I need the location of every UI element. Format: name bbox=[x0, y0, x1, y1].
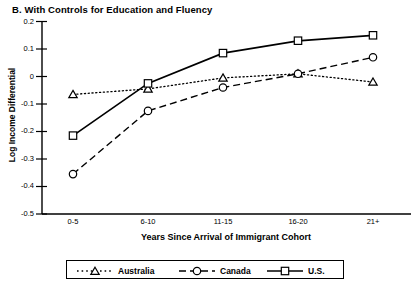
legend-item-canada: Canada bbox=[177, 261, 251, 280]
legend-symbol-canada-icon bbox=[177, 264, 217, 278]
chart-container: B. With Controls for Education and Fluen… bbox=[0, 0, 413, 288]
chart-legend: Australia Canada U.S. bbox=[66, 260, 344, 279]
legend-symbol-us-icon bbox=[265, 264, 305, 278]
legend-item-australia: Australia bbox=[75, 261, 154, 280]
plot-area bbox=[0, 0, 413, 288]
legend-symbol-australia-icon bbox=[75, 264, 115, 278]
legend-label-us: U.S. bbox=[308, 266, 325, 276]
legend-item-us: U.S. bbox=[265, 261, 325, 280]
legend-label-australia: Australia bbox=[118, 266, 154, 276]
marker-circle-canada bbox=[69, 54, 376, 178]
series-canada bbox=[69, 54, 376, 178]
legend-label-canada: Canada bbox=[220, 266, 251, 276]
